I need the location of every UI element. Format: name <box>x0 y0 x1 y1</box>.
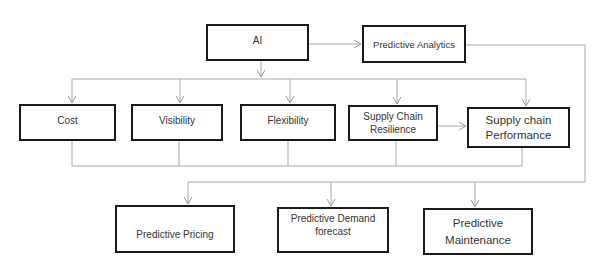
node-predictive-pricing: Predictive Pricing <box>115 205 235 253</box>
node-predictive-analytics: Predictive Analytics <box>362 25 466 63</box>
node-supply-chain-performance: Supply chain Performance <box>467 107 570 148</box>
node-cost: Cost <box>19 104 116 141</box>
node-predictive-demand-forecast: Predictive Demand forecast <box>277 207 389 253</box>
node-supply-chain-resilience-label: Supply Chain Resilience <box>363 110 422 136</box>
node-predictive-maintenance-label: Predictive Maintenance <box>445 215 511 249</box>
node-supply-chain-performance-label: Supply chain Performance <box>486 113 552 143</box>
node-predictive-demand-forecast-label: Predictive Demand forecast <box>291 212 375 238</box>
node-predictive-pricing-label: Predictive Pricing <box>136 228 213 241</box>
node-ai-label: AI <box>253 34 262 47</box>
node-flexibility-label: Flexibility <box>267 114 308 127</box>
node-flexibility: Flexibility <box>240 104 336 141</box>
node-ai: AI <box>206 24 309 61</box>
node-supply-chain-resilience: Supply Chain Resilience <box>348 105 438 141</box>
node-cost-label: Cost <box>57 114 78 127</box>
node-predictive-maintenance: Predictive Maintenance <box>423 208 533 255</box>
node-visibility-label: Visibility <box>159 114 195 127</box>
node-predictive-analytics-label: Predictive Analytics <box>373 38 455 51</box>
node-visibility: Visibility <box>131 104 223 141</box>
